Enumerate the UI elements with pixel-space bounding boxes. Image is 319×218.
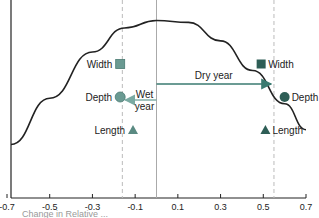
x-tick-label: 0.5 xyxy=(257,202,270,212)
wet-year-arrow-label: Wet xyxy=(136,89,154,100)
dry-width-label: Width xyxy=(268,59,294,70)
x-tick-label: -0.7 xyxy=(0,202,15,212)
wet-length-marker xyxy=(128,125,138,134)
dry-length-marker xyxy=(260,125,270,134)
response-curve xyxy=(11,21,306,145)
wet-depth-label: Depth xyxy=(86,92,113,103)
x-axis-caption: Change in Relative ... xyxy=(22,209,108,218)
wet-depth-marker xyxy=(115,92,125,102)
wet-width-marker xyxy=(116,60,125,69)
wet-width-label: Width xyxy=(87,59,113,70)
axes xyxy=(11,0,306,198)
wet-length-label: Length xyxy=(94,125,125,136)
x-tick-label: -0.1 xyxy=(127,202,143,212)
chart: Dry yearWetyear WidthDepthLengthWidthDep… xyxy=(0,0,319,218)
x-tick-label: 0.7 xyxy=(300,202,313,212)
dry-depth-marker xyxy=(280,92,290,102)
dry-width-marker xyxy=(257,60,266,69)
arrows: Dry yearWetyear xyxy=(125,70,271,112)
wet-year-arrow-label: year xyxy=(135,101,155,112)
dry-year-arrow-label: Dry year xyxy=(195,70,233,81)
dry-length-label: Length xyxy=(272,125,303,136)
x-tick-label: 0.3 xyxy=(214,202,227,212)
dry-depth-label: Depth xyxy=(292,92,319,103)
x-tick-label: 0.1 xyxy=(172,202,185,212)
